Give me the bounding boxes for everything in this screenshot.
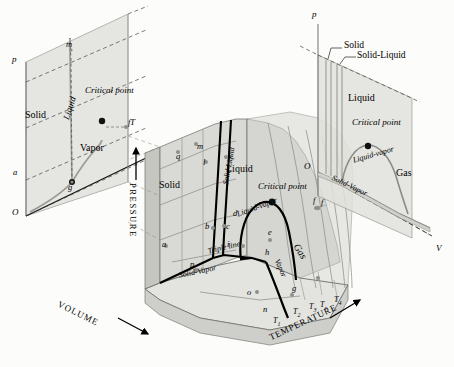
center-point-k: k (228, 152, 232, 161)
center-point-b: b (205, 222, 209, 231)
center-region-solid: Solid (159, 180, 180, 190)
point-f-dot (316, 206, 320, 210)
right-axis-p-label: p (312, 10, 317, 19)
left-point-m: m (66, 40, 72, 49)
center-point-o: o (247, 288, 251, 297)
left-point-a: a (13, 168, 17, 177)
right-axis-V-label: V (436, 244, 442, 253)
center-point-f: f (321, 198, 323, 207)
left-critical-point-text: Critical point (85, 85, 134, 95)
center-point-c: c (226, 222, 230, 231)
center-point-i: i (227, 240, 229, 249)
right-point-f: f (313, 196, 315, 205)
critical-point-dot-pv (365, 143, 371, 149)
right-region-liquid: Liquid (348, 93, 375, 103)
pressure-axis-label: PRESSURE (128, 183, 137, 238)
right-critical-point-text: Critical point (352, 117, 401, 127)
center-point-m: m (197, 142, 203, 151)
left-point-g: g (68, 183, 72, 192)
center-point-h: h (265, 248, 269, 257)
right-region-solid-liquid: Solid-Liquid (357, 51, 406, 61)
center-point-d: d (233, 209, 237, 218)
center-point-e: e (268, 228, 272, 237)
left-axis-p-label: p (12, 55, 17, 64)
isotherm-label-T2: T2 (293, 308, 300, 318)
volume-axis-arrow (118, 318, 148, 334)
left-point-f: f (128, 118, 130, 127)
center-critical-point-text: Critical point (258, 181, 307, 191)
right-region-gas: Gas (396, 168, 412, 178)
isotherm-label-T1: T1 (273, 317, 280, 327)
center-point-g: g (292, 284, 296, 293)
phase-diagram-figure: p T O Solid Liquid Vapor Critical point … (0, 0, 454, 367)
left-region-vapor: Vapor (80, 143, 104, 153)
center-critical-point-label: Critical point (258, 182, 307, 191)
right-critical-point-label: Critical point (352, 118, 401, 127)
center-point-a: a (162, 240, 166, 249)
right-origin-label: O (304, 162, 311, 171)
center-point-l: l (203, 158, 205, 167)
left-region-solid: Solid (25, 110, 46, 120)
left-axis-T-label: T (130, 118, 135, 127)
center-point-p: p (190, 260, 194, 269)
left-origin-label: O (12, 208, 19, 217)
left-critical-point-label: Critical point (85, 86, 134, 95)
center-point-n: n (263, 305, 267, 314)
center-point-q: q (176, 152, 180, 161)
